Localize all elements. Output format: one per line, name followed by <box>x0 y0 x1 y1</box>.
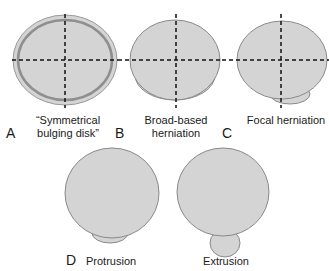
panel-c-letter: C <box>222 126 232 140</box>
panel-b-letter: B <box>115 126 124 140</box>
panel-a-letter: A <box>6 126 15 140</box>
panel-c-disk <box>222 14 329 108</box>
panel-d-extrusion-disk <box>177 148 269 257</box>
panel-d-extrusion-caption: Extrusion <box>200 255 252 268</box>
panel-a-disk <box>12 14 118 108</box>
panel-c-caption: Focal herniation <box>245 114 327 127</box>
panel-a-caption-line1: “Symmetrical <box>30 114 106 127</box>
panel-a-caption-line2: bulging disk” <box>30 127 106 140</box>
panel-d-protrusion-caption: Protrusion <box>86 255 140 268</box>
panel-d-letter: D <box>66 253 76 267</box>
panel-b-caption-line2: herniation <box>140 127 212 140</box>
panel-b-disk <box>118 14 222 108</box>
panel-b-caption-line1: Broad-based <box>140 114 212 127</box>
panel-d-protrusion-disk <box>65 148 159 243</box>
